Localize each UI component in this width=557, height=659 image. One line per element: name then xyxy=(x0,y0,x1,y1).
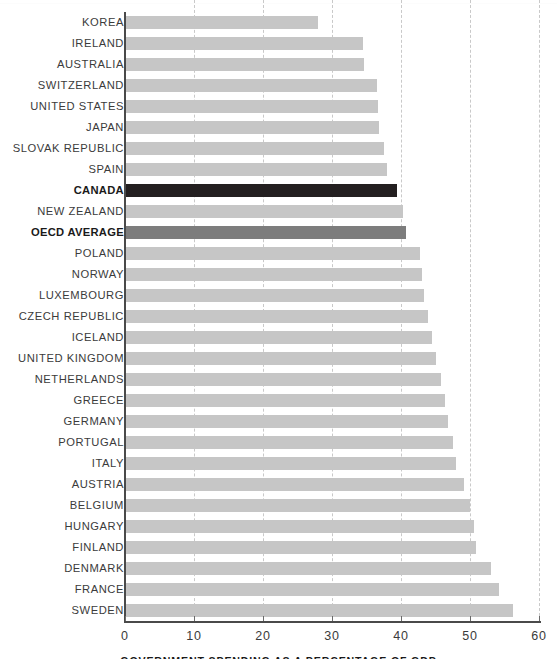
bar-track xyxy=(125,180,539,201)
chart-row: SWITZERLAND xyxy=(0,75,557,96)
category-label: JAPAN xyxy=(86,117,124,138)
category-label: NEW ZEALAND xyxy=(37,201,124,222)
chart-row: NEW ZEALAND xyxy=(0,201,557,222)
bar-track xyxy=(125,306,539,327)
bar xyxy=(125,604,513,617)
bar-track xyxy=(125,222,539,243)
chart-row: CZECH REPUBLIC xyxy=(0,306,557,327)
bar xyxy=(125,520,474,533)
category-label: KOREA xyxy=(82,12,124,33)
x-tick-label: 20 xyxy=(255,629,271,643)
bar xyxy=(125,415,448,428)
category-label: IRELAND xyxy=(72,33,124,54)
x-tick-label: 50 xyxy=(462,629,478,643)
category-label: ICELAND xyxy=(72,327,124,348)
x-tick xyxy=(401,616,402,621)
bar xyxy=(125,226,406,239)
x-tick-label: 60 xyxy=(531,629,547,643)
bar xyxy=(125,58,364,71)
chart-row: GREECE xyxy=(0,390,557,411)
chart-row: HUNGARY xyxy=(0,516,557,537)
chart-row: PORTUGAL xyxy=(0,432,557,453)
chart-row: SPAIN xyxy=(0,159,557,180)
chart-row: LUXEMBOURG xyxy=(0,285,557,306)
bar xyxy=(125,562,491,575)
bar-track xyxy=(125,201,539,222)
bar xyxy=(125,142,384,155)
category-label: GREECE xyxy=(73,390,124,411)
x-tick xyxy=(539,616,540,621)
bar xyxy=(125,352,436,365)
bar xyxy=(125,583,499,596)
bar-track xyxy=(125,390,539,411)
category-label: PORTUGAL xyxy=(58,432,124,453)
bar-track xyxy=(125,537,539,558)
category-label: UNITED STATES xyxy=(30,96,124,117)
bar xyxy=(125,16,318,29)
bar xyxy=(125,100,378,113)
bar xyxy=(125,37,363,50)
category-label: SLOVAK REPUBLIC xyxy=(13,138,124,159)
chart-row: UNITED STATES xyxy=(0,96,557,117)
bar xyxy=(125,247,420,260)
bar xyxy=(125,184,397,197)
bar xyxy=(125,331,432,344)
chart-row: FINLAND xyxy=(0,537,557,558)
category-label: ITALY xyxy=(92,453,124,474)
chart-row: AUSTRIA xyxy=(0,474,557,495)
category-label: POLAND xyxy=(75,243,124,264)
chart-row: FRANCE xyxy=(0,579,557,600)
chart-row: AUSTRALIA xyxy=(0,54,557,75)
chart-row: ICELAND xyxy=(0,327,557,348)
x-axis-line xyxy=(124,621,541,623)
bar xyxy=(125,373,441,386)
bar-track xyxy=(125,453,539,474)
category-label: SPAIN xyxy=(89,159,125,180)
category-label: SWEDEN xyxy=(72,600,124,621)
category-label: HUNGARY xyxy=(64,516,124,537)
chart-row: SWEDEN xyxy=(0,600,557,621)
category-label: FRANCE xyxy=(75,579,124,600)
bar xyxy=(125,457,456,470)
chart-row: NORWAY xyxy=(0,264,557,285)
bar-track xyxy=(125,75,539,96)
bar xyxy=(125,541,476,554)
bar xyxy=(125,310,428,323)
chart-row: ITALY xyxy=(0,453,557,474)
x-tick xyxy=(332,616,333,621)
bar xyxy=(125,121,379,134)
bar xyxy=(125,205,403,218)
bar-track xyxy=(125,495,539,516)
chart-row: NETHERLANDS xyxy=(0,369,557,390)
chart-container: KOREAIRELANDAUSTRALIASWITZERLANDUNITED S… xyxy=(0,0,557,659)
category-label: LUXEMBOURG xyxy=(39,285,124,306)
bar-track xyxy=(125,12,539,33)
bar-track xyxy=(125,516,539,537)
chart-row: POLAND xyxy=(0,243,557,264)
plot-area: KOREAIRELANDAUSTRALIASWITZERLANDUNITED S… xyxy=(0,0,557,659)
category-label: NETHERLANDS xyxy=(35,369,124,390)
chart-row: OECD AVERAGE xyxy=(0,222,557,243)
bar-track xyxy=(125,369,539,390)
bar-track xyxy=(125,327,539,348)
bar-track xyxy=(125,264,539,285)
bar xyxy=(125,394,445,407)
x-tick-label: 0 xyxy=(121,629,129,643)
bar-track xyxy=(125,285,539,306)
bar-track xyxy=(125,33,539,54)
bar-rows: KOREAIRELANDAUSTRALIASWITZERLANDUNITED S… xyxy=(0,12,557,621)
chart-row: DENMARK xyxy=(0,558,557,579)
bar-track xyxy=(125,138,539,159)
bar xyxy=(125,478,464,491)
category-label: SWITZERLAND xyxy=(38,75,124,96)
bar xyxy=(125,436,453,449)
bar-track xyxy=(125,579,539,600)
chart-row: JAPAN xyxy=(0,117,557,138)
bar xyxy=(125,79,377,92)
category-label: UNITED KINGDOM xyxy=(18,348,124,369)
chart-row: IRELAND xyxy=(0,33,557,54)
x-tick xyxy=(194,616,195,621)
bar xyxy=(125,163,387,176)
bar-track xyxy=(125,117,539,138)
x-tick xyxy=(125,616,126,621)
